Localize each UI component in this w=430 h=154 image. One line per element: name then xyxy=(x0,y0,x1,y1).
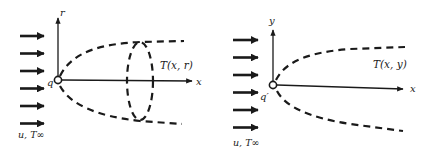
source-point xyxy=(269,81,276,88)
field-label: T(x, r) xyxy=(160,59,193,71)
source-point xyxy=(54,76,61,83)
plume-lower-boundary xyxy=(277,91,403,131)
x-axis xyxy=(277,85,403,89)
inflow-label: u, T∞ xyxy=(18,129,44,140)
plume-lower-boundary xyxy=(60,86,182,124)
inflow-arrows xyxy=(233,40,258,128)
x-axis-label: x xyxy=(410,83,416,94)
diagram-canvas: r x q T(x, r) u, T∞ y x q′ T(x, y) u, T∞ xyxy=(0,0,430,154)
source-label: q′ xyxy=(260,91,269,102)
panel-planar: y x q′ T(x, y) u, T∞ xyxy=(233,15,416,148)
r-axis-label: r xyxy=(60,7,66,18)
panel-axisymmetric: r x q T(x, r) u, T∞ xyxy=(18,7,202,140)
y-axis-label: y xyxy=(268,15,275,26)
inflow-label: u, T∞ xyxy=(233,137,259,148)
x-axis-label: x xyxy=(196,76,202,87)
diagram-stage: r x q T(x, r) u, T∞ y x q′ T(x, y) u, T∞ xyxy=(0,0,430,154)
field-label: T(x, y) xyxy=(373,58,407,70)
source-label: q xyxy=(47,77,53,88)
inflow-arrows xyxy=(20,36,44,124)
